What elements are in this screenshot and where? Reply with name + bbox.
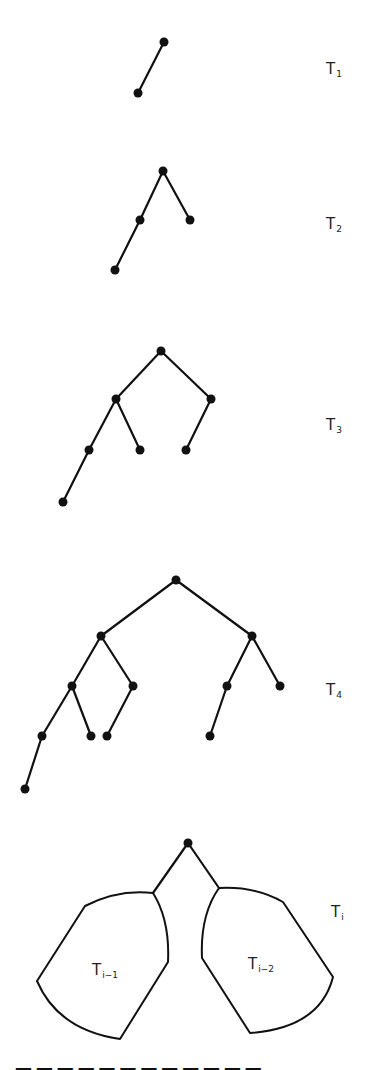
tree-node [206,732,215,741]
fibonacci-trees-figure [0,0,373,1070]
tree-t2 [111,167,195,275]
tree-node [68,682,77,691]
tree-edge [138,42,164,93]
root-node [184,839,193,848]
caption-text: ▬▬▬▬▬▬▬▬▬▬▬▬ [0,1058,373,1070]
tree-edge [42,686,72,736]
general-tree-ti [37,839,333,1040]
tree-node [157,347,166,356]
label-subtree-left: Ti−1 [92,963,118,980]
tree-edge [101,580,176,636]
tree-node [85,446,94,455]
tree-edge [25,736,42,789]
tree-t4 [21,576,285,794]
tree-node [182,446,191,455]
edge-left-connector [153,843,188,893]
tree-edge [227,636,252,686]
label-ti: Ti [331,905,344,922]
tree-node [112,395,121,404]
tree-edge [140,171,163,220]
tree-edge [163,171,190,220]
tree-edge [186,399,211,450]
label-t2: T2 [326,217,342,234]
tree-edge [116,351,161,399]
tree-edge [161,351,211,399]
tree-edge [63,450,89,502]
tree-edge [252,636,280,686]
tree-t3 [59,347,216,507]
figure-caption-clipped: ▬▬▬▬▬▬▬▬▬▬▬▬ [0,1058,373,1070]
tree-edge [72,636,101,686]
tree-node [136,216,145,225]
tree-node [207,395,216,404]
tree-node [134,89,143,98]
tree-edge [115,220,140,270]
tree-node [172,576,181,585]
tree-node [159,167,168,176]
tree-node [21,785,30,794]
tree-node [129,682,138,691]
label-t4: T4 [326,683,342,700]
tree-diagrams [21,38,285,794]
tree-node [223,682,232,691]
tree-edge [107,686,133,736]
tree-node [186,216,195,225]
tree-edge [116,399,140,450]
label-subtree-right: Ti−2 [248,957,274,974]
tree-node [111,266,120,275]
edge-right-connector [188,843,219,888]
tree-t1 [134,38,169,98]
tree-node [160,38,169,47]
tree-node [136,446,145,455]
tree-node [248,632,257,641]
tree-node [103,732,112,741]
tree-edge [72,686,91,736]
tree-node [87,732,96,741]
tree-edge [101,636,133,686]
tree-node [97,632,106,641]
tree-node [38,732,47,741]
label-t3: T3 [326,418,342,435]
tree-node [59,498,68,507]
label-t1: T1 [326,62,342,79]
tree-edge [89,399,116,450]
tree-edge [210,686,227,736]
tree-edge [176,580,252,636]
tree-node [276,682,285,691]
